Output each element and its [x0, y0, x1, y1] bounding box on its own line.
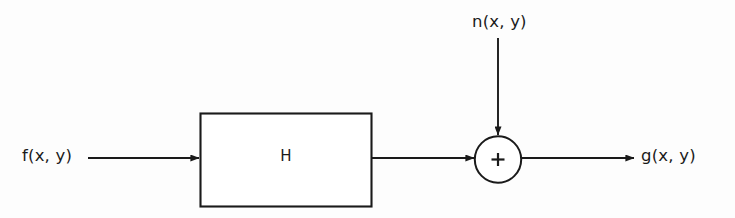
noise-signal-label: n(x, y): [472, 14, 527, 31]
degradation-function-label: H: [200, 149, 372, 164]
diagram-canvas: [0, 0, 735, 218]
output-signal-label: g(x, y): [641, 148, 696, 165]
input-signal-label: f(x, y): [22, 148, 72, 165]
block-diagram-figure: f(x, y) n(x, y) g(x, y) H: [0, 0, 735, 218]
